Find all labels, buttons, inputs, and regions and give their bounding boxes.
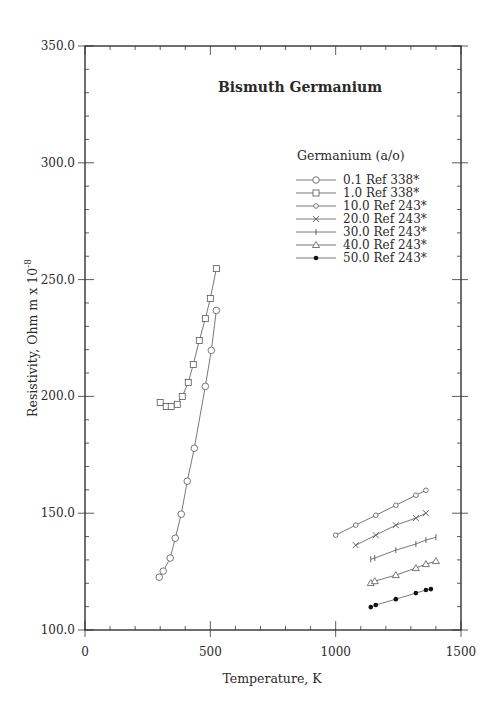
legend-label: 50.0 Ref 243* bbox=[343, 251, 427, 265]
series-dot bbox=[368, 587, 433, 610]
axes: 050010001500100.0150.0200.0250.0300.0350… bbox=[41, 39, 477, 659]
y-tick-label: 200.0 bbox=[41, 389, 75, 403]
legend: Germanium (a/o) 0.1 Ref 338*1.0 Ref 338*… bbox=[296, 148, 427, 265]
x-tick-label: 1500 bbox=[446, 645, 477, 659]
series-x bbox=[353, 510, 429, 548]
svg-text:Resistivity, Ohm m x 10-8: Resistivity, Ohm m x 10-8 bbox=[23, 259, 40, 417]
series-plus bbox=[371, 534, 436, 562]
legend-label: 0.1 Ref 338* bbox=[343, 173, 419, 187]
y-tick-label: 100.0 bbox=[41, 623, 75, 637]
series-diamond bbox=[333, 488, 428, 537]
legend-label: 30.0 Ref 243* bbox=[343, 225, 427, 239]
legend-label: 10.0 Ref 243* bbox=[343, 199, 427, 213]
legend-label: 20.0 Ref 243* bbox=[343, 212, 427, 226]
series-square bbox=[157, 266, 219, 410]
chart: 050010001500100.0150.0200.0250.0300.0350… bbox=[0, 0, 492, 709]
legend-item: 0.1 Ref 338* bbox=[296, 173, 419, 187]
legend-title: Germanium (a/o) bbox=[297, 148, 405, 163]
plot-area: 050010001500100.0150.0200.0250.0300.0350… bbox=[0, 0, 492, 709]
legend-item: 40.0 Ref 243* bbox=[296, 238, 427, 252]
x-tick-label: 0 bbox=[81, 645, 89, 659]
legend-item: 50.0 Ref 243* bbox=[296, 251, 427, 265]
y-tick-label: 150.0 bbox=[41, 506, 75, 520]
legend-item: 20.0 Ref 243* bbox=[296, 212, 427, 226]
y-tick-label: 250.0 bbox=[41, 273, 75, 287]
plot-frame bbox=[85, 46, 461, 630]
x-tick-label: 1000 bbox=[320, 645, 351, 659]
chart-title: Bismuth Germanium bbox=[218, 79, 382, 95]
legend-item: 1.0 Ref 338* bbox=[296, 186, 419, 200]
y-axis-label: Resistivity, Ohm m x 10-8 bbox=[23, 259, 40, 417]
series-circle bbox=[156, 307, 220, 580]
x-axis-label: Temperature, K bbox=[222, 671, 322, 686]
legend-label: 1.0 Ref 338* bbox=[343, 186, 419, 200]
legend-label: 40.0 Ref 243* bbox=[343, 238, 427, 252]
series-triangle bbox=[367, 558, 439, 586]
legend-item: 30.0 Ref 243* bbox=[296, 225, 427, 239]
series-layer bbox=[156, 266, 440, 610]
y-tick-label: 350.0 bbox=[41, 39, 75, 53]
y-tick-label: 300.0 bbox=[41, 156, 75, 170]
x-tick-label: 500 bbox=[199, 645, 222, 659]
legend-item: 10.0 Ref 243* bbox=[296, 199, 427, 213]
